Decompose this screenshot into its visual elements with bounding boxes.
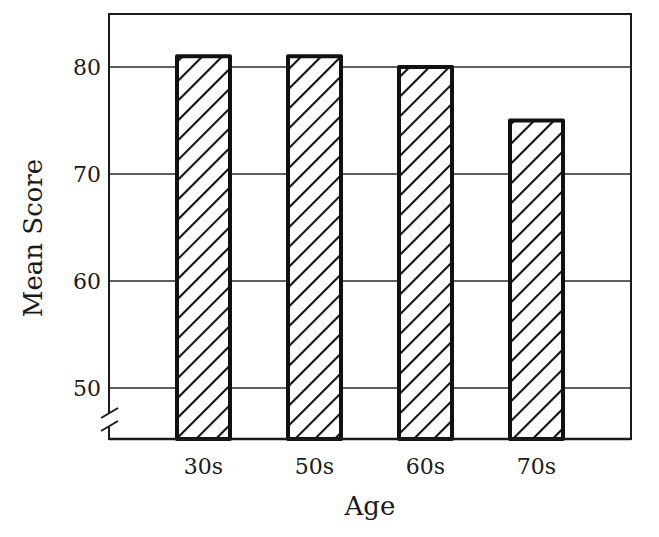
- x-tick-label: 50s: [295, 454, 334, 479]
- bar-30s: [177, 56, 230, 439]
- bar-70s: [510, 121, 563, 440]
- x-tick-label: 60s: [406, 454, 445, 479]
- y-tick-label: 80: [73, 55, 101, 80]
- bars: [177, 56, 563, 439]
- y-axis-title: Mean Score: [18, 159, 48, 317]
- x-tick-label: 70s: [517, 454, 556, 479]
- y-tick-label: 70: [73, 162, 101, 187]
- y-tick-label: 50: [73, 376, 101, 401]
- x-axis-ticks: 30s50s60s70s: [184, 454, 556, 479]
- bar-60s: [399, 67, 452, 439]
- y-axis-ticks: 50607080: [73, 55, 101, 401]
- x-axis-title: Age: [344, 491, 396, 521]
- y-tick-label: 60: [73, 269, 101, 294]
- x-tick-label: 30s: [184, 454, 223, 479]
- bar-chart: 50607080 30s50s60s70s Mean Score Age: [0, 0, 659, 537]
- bar-50s: [288, 56, 341, 439]
